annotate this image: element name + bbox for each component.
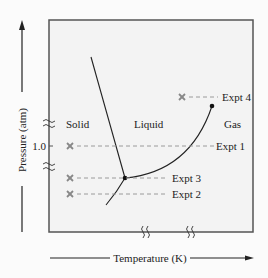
y-axis-label: Pressure (atm): [16, 108, 29, 172]
experiment-label: Expt 4: [222, 91, 252, 103]
critical-point: [210, 104, 215, 109]
region-label-solid: Solid: [66, 118, 90, 130]
experiment-label: Expt 1: [216, 140, 245, 152]
region-label-liquid: Liquid: [134, 118, 164, 130]
x-axis-label: Temperature (K): [113, 252, 187, 265]
region-label-gas: Gas: [224, 118, 241, 130]
experiment-label: Expt 3: [172, 172, 202, 184]
experiment-label: Expt 2: [172, 188, 201, 200]
phase-diagram: Pressure (atm) Temperature (K) 1.0 Solid…: [0, 0, 268, 278]
y-tick-label: 1.0: [32, 140, 46, 152]
